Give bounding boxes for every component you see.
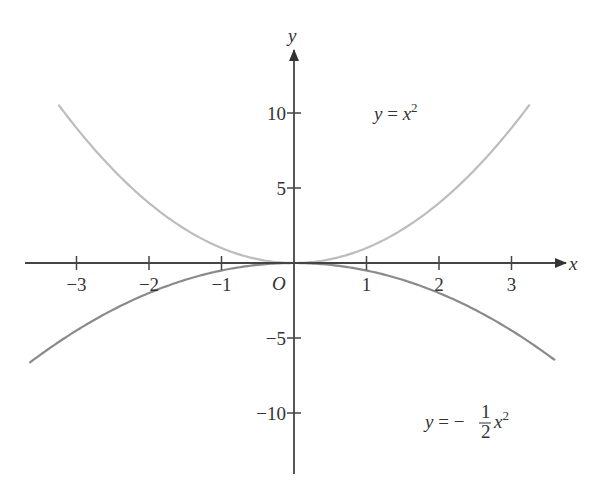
lower-label-sup: 2: [502, 408, 509, 423]
x-tick-label: 3: [507, 274, 517, 295]
origin-label: O: [272, 273, 286, 294]
x-axis-label: x: [568, 253, 578, 274]
y-tick-label: −10: [256, 403, 286, 424]
lower-curve-label: y = − 1 2 x2: [423, 401, 509, 442]
lower-label-eq: = −: [433, 411, 464, 432]
lower-label-num: 1: [481, 401, 491, 422]
svg-text:y = −: y = −: [423, 411, 464, 432]
lower-label-den: 2: [481, 421, 491, 442]
x-tick-label: 1: [362, 274, 372, 295]
parabola-chart: −3−2−1123105−5−10 x y O y = x2 y = − 1 2…: [0, 0, 612, 498]
x-tick-label: −1: [211, 274, 231, 295]
upper-label-lhs: y: [372, 103, 383, 124]
x-tick-label: −3: [66, 274, 86, 295]
upper-curve-label: y = x2: [372, 100, 418, 124]
svg-text:x2: x2: [493, 408, 509, 432]
upper-label-sup: 2: [411, 100, 418, 115]
y-tick-label: −5: [266, 328, 286, 349]
upper-label-eq: =: [382, 103, 402, 124]
curve-y-equals-neg-half-x-squared: [29, 263, 555, 363]
y-axis-label: y: [286, 25, 297, 46]
y-tick-label: 10: [267, 103, 286, 124]
y-tick-label: 5: [277, 178, 287, 199]
x-tick-label: 2: [434, 274, 444, 295]
x-tick-label: −2: [139, 274, 159, 295]
lower-label-lhs: y: [423, 411, 434, 432]
